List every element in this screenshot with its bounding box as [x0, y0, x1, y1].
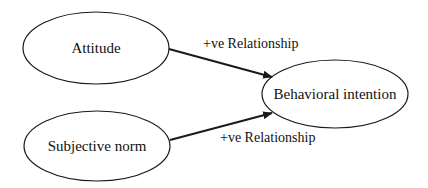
node-attitude: Attitude — [23, 12, 169, 84]
node-behavioral-intention: Behavioral intention — [262, 60, 408, 128]
edge-subjective-norm-to-intention: +ve Relationship — [170, 113, 315, 145]
subjective-norm-label: Subjective norm — [48, 138, 147, 154]
edge-label-attitude: +ve Relationship — [203, 36, 298, 51]
attitude-label: Attitude — [71, 40, 121, 56]
edge-label-subjective-norm: +ve Relationship — [220, 130, 315, 145]
diagram-canvas: Attitude Subjective norm Behavioral inte… — [0, 0, 428, 188]
behavioral-intention-label: Behavioral intention — [274, 86, 397, 102]
arrow-icon — [169, 49, 272, 77]
node-subjective-norm: Subjective norm — [24, 111, 170, 181]
edge-attitude-to-intention: +ve Relationship — [169, 36, 298, 77]
